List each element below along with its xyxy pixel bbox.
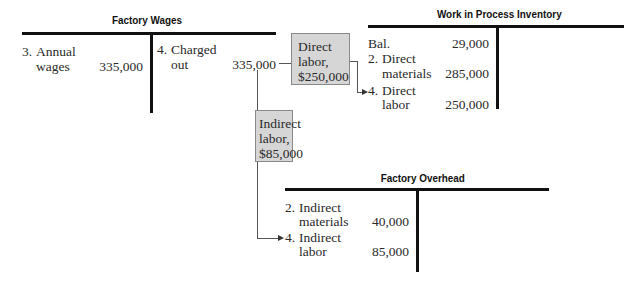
overhead-divider (416, 188, 419, 272)
oh-im-label1: Indirect (299, 200, 341, 215)
fw-credit-num: 4. (157, 42, 167, 57)
wip-dl-label1: Direct (382, 83, 416, 98)
oh-il-label2: labor (299, 244, 327, 259)
oh-im-label2: materials (299, 214, 348, 229)
wip-dl-num: 4. (368, 83, 378, 98)
oh-il-label1: Indirect (299, 230, 341, 245)
direct-labor-line3: $250,000 (298, 69, 349, 84)
wip-bal-amount: 29,000 (430, 36, 489, 51)
wip-dm-amount: 285,000 (430, 66, 489, 81)
connector-direct-down (357, 61, 358, 93)
arrow-to-overhead-icon (278, 235, 284, 241)
factory-wages-divider (150, 32, 153, 113)
wip-dm-label1: Direct (382, 51, 416, 66)
factory-wages-top-line (22, 32, 276, 35)
indirect-labor-box: Indirect labor, $85,000 (255, 110, 293, 162)
indirect-labor-line1: Indirect (259, 116, 292, 131)
connector-indirect-right (257, 238, 279, 239)
wip-dl-amount: 250,000 (430, 97, 489, 112)
oh-im-num: 2. (285, 200, 295, 215)
wip-title: Work in Process Inventory (437, 8, 562, 20)
indirect-labor-line3: $85,000 (259, 146, 292, 161)
fw-debit-num: 3. (22, 44, 32, 59)
fw-debit-label1: Annual (36, 44, 76, 59)
fw-credit-amount: 335,000 (222, 57, 276, 72)
fw-debit-amount: 335,000 (90, 59, 143, 74)
connector-indirect-down (257, 162, 258, 239)
connector-to-indirect-box (257, 70, 258, 110)
fw-credit-label1: Charged (171, 42, 217, 57)
overhead-title: Factory Overhead (381, 172, 465, 184)
oh-im-amount: 40,000 (360, 214, 409, 229)
direct-labor-line1: Direct (298, 39, 349, 54)
connector-to-direct-box (279, 63, 291, 64)
wip-dm-label2: materials (382, 66, 431, 81)
indirect-labor-line2: labor, (259, 131, 292, 146)
fw-credit-label2: out (171, 57, 188, 72)
oh-il-num: 4. (285, 230, 295, 245)
factory-wages-title: Factory Wages (112, 14, 182, 26)
direct-labor-box: Direct labor, $250,000 (291, 33, 350, 85)
wip-divider (496, 25, 499, 109)
fw-debit-label2: wages (36, 59, 70, 74)
oh-il-amount: 85,000 (360, 244, 409, 259)
direct-labor-line2: labor, (298, 54, 349, 69)
wip-bal-label: Bal. (368, 36, 390, 51)
wip-dl-label2: labor (382, 97, 410, 112)
wip-dm-num: 2. (368, 51, 378, 66)
